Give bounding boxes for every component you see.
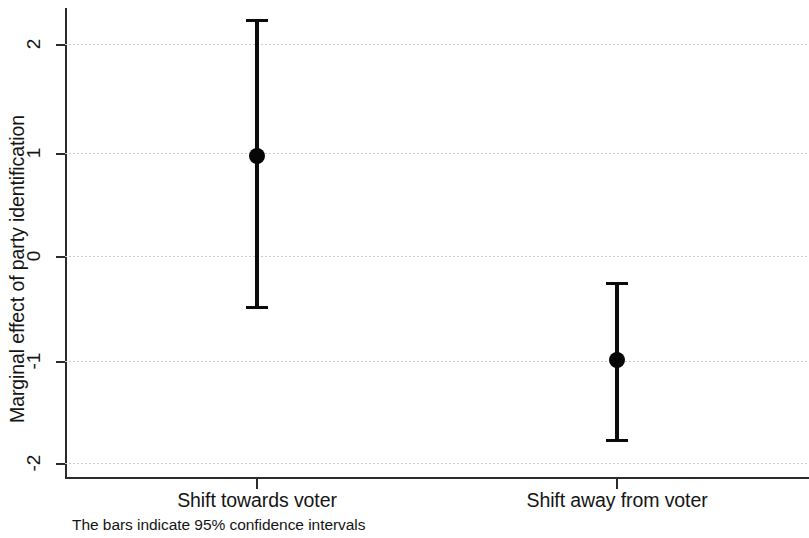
x-tick-shift-towards-voter — [256, 479, 258, 489]
y-tick-label-neg2: -2 — [19, 452, 49, 474]
y-tick-neg2 — [56, 463, 65, 465]
y-tick-0 — [56, 256, 65, 258]
estimate-marker — [249, 148, 265, 164]
gridline-y-1 — [65, 153, 809, 154]
y-tick-2 — [56, 44, 65, 46]
y-tick-label-neg1: -1 — [19, 350, 49, 372]
chart-footnote: The bars indicate 95% confidence interva… — [72, 516, 365, 534]
y-tick-neg1 — [56, 361, 65, 363]
gridline-y-neg1 — [65, 361, 809, 362]
x-tick-label-shift-towards-voter: Shift towards voter — [177, 489, 337, 512]
plot-area: 2 1 0 -1 -2 — [65, 8, 809, 477]
y-tick-label-2: 2 — [19, 33, 49, 55]
errorbar-cap-lower — [246, 306, 268, 309]
y-tick-1 — [56, 153, 65, 155]
x-tick-shift-away-from-voter — [616, 479, 618, 489]
gridline-y-2 — [65, 44, 809, 45]
gridline-y-0 — [65, 256, 809, 257]
errorbar-line — [255, 19, 258, 309]
y-tick-label-1: 1 — [19, 142, 49, 164]
errorbar-cap-upper — [246, 19, 268, 22]
x-tick-label-shift-away-from-voter: Shift away from voter — [526, 489, 707, 512]
estimate-marker — [609, 352, 625, 368]
marginal-effects-plot: Marginal effect of party identification … — [0, 0, 809, 538]
errorbar-cap-upper — [606, 282, 628, 285]
y-tick-label-0: 0 — [19, 245, 49, 267]
gridline-y-neg2 — [65, 463, 809, 464]
errorbar-cap-lower — [606, 439, 628, 442]
x-axis-line — [65, 477, 809, 479]
